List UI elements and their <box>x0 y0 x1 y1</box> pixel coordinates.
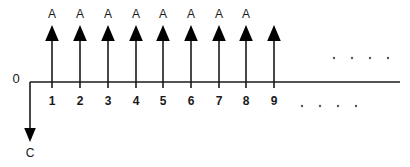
tick-label-4: 4 <box>133 94 140 108</box>
impulse-arrowhead-icon-7 <box>212 25 226 41</box>
continuation-dot-upper-3 <box>369 57 371 59</box>
tick-label-9: 9 <box>271 94 278 108</box>
amplitude-label-5: A <box>159 7 167 21</box>
impulse-train-diagram: A A A A A A A A 1 2 3 4 5 6 7 8 9 0 C <box>0 0 410 167</box>
impulse-8 <box>239 25 253 88</box>
continuation-dot-lower-3 <box>337 105 339 107</box>
vertical-axis-arrowhead-icon <box>24 128 36 142</box>
impulse-5 <box>156 25 170 88</box>
continuation-dots-lower <box>301 105 357 107</box>
amplitude-label-7: A <box>215 7 223 21</box>
impulse-arrowhead-icon-1 <box>45 25 59 41</box>
continuation-dot-lower-1 <box>301 105 303 107</box>
impulse-arrowhead-icon-5 <box>156 25 170 41</box>
tick-label-3: 3 <box>105 94 112 108</box>
impulse-1 <box>45 25 59 88</box>
amplitude-label-6: A <box>187 7 195 21</box>
continuation-dots-upper <box>333 57 389 59</box>
continuation-dot-lower-4 <box>355 105 357 107</box>
tick-label-6: 6 <box>188 94 195 108</box>
amplitude-label-4: A <box>132 7 140 21</box>
amplitude-label-1: A <box>48 7 56 21</box>
continuation-dot-upper-2 <box>351 57 353 59</box>
origin-label: 0 <box>12 71 19 86</box>
impulse-6 <box>184 25 198 88</box>
impulse-4 <box>129 25 143 88</box>
impulse-arrowhead-icon-8 <box>239 25 253 41</box>
tick-label-group: 1 2 3 4 5 6 7 8 9 <box>49 94 278 108</box>
vertical-axis-group <box>24 82 36 142</box>
diagram-canvas: A A A A A A A A 1 2 3 4 5 6 7 8 9 0 C <box>0 0 410 167</box>
amplitude-label-group: A A A A A A A A <box>48 7 250 21</box>
vertical-axis-label: C <box>26 146 35 160</box>
impulse-group <box>45 25 281 88</box>
amplitude-label-8: A <box>242 7 250 21</box>
amplitude-label-2: A <box>76 7 84 21</box>
impulse-arrowhead-icon-2 <box>73 25 87 41</box>
continuation-dot-lower-2 <box>319 105 321 107</box>
tick-label-8: 8 <box>243 94 250 108</box>
impulse-arrowhead-icon-9 <box>267 25 281 41</box>
impulse-3 <box>101 25 115 88</box>
tick-label-1: 1 <box>49 94 56 108</box>
impulse-9 <box>267 25 281 88</box>
tick-label-7: 7 <box>216 94 223 108</box>
tick-label-2: 2 <box>77 94 84 108</box>
amplitude-label-3: A <box>104 7 112 21</box>
impulse-2 <box>73 25 87 88</box>
impulse-7 <box>212 25 226 88</box>
impulse-arrowhead-icon-6 <box>184 25 198 41</box>
impulse-arrowhead-icon-3 <box>101 25 115 41</box>
continuation-dot-upper-4 <box>387 57 389 59</box>
impulse-arrowhead-icon-4 <box>129 25 143 41</box>
continuation-dot-upper-1 <box>333 57 335 59</box>
tick-label-5: 5 <box>160 94 167 108</box>
